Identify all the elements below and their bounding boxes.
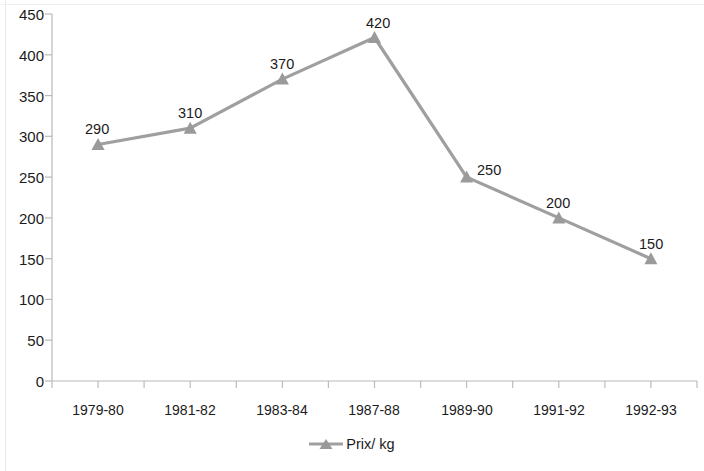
series-markers-prix-kg [92,31,658,264]
x-tick-label-1983-84: 1983-84 [232,403,332,417]
legend-marker-icon [309,437,343,451]
y-tick-label-100: 100 [0,292,44,307]
x-tick-label-1992-93: 1992-93 [601,403,701,417]
x-axis-ticks [52,381,697,388]
y-tick-label-150: 150 [0,252,44,267]
y-tick-label-400: 400 [0,48,44,63]
data-label-200: 200 [546,196,570,211]
data-label-370: 370 [270,57,294,72]
y-tick-label-300: 300 [0,129,44,144]
y-tick-label-250: 250 [0,170,44,185]
x-tick-label-1979-80: 1979-80 [48,403,148,417]
data-label-290: 290 [85,122,109,137]
data-label-420: 420 [366,16,390,31]
x-tick-label-1987-88: 1987-88 [324,403,424,417]
y-tick-label-350: 350 [0,89,44,104]
y-tick-label-0: 0 [0,374,44,389]
x-tick-label-1991-92: 1991-92 [509,403,609,417]
x-tick-label-1981-82: 1981-82 [140,403,240,417]
y-tick-label-450: 450 [0,7,44,22]
data-label-310: 310 [178,106,202,121]
series-line-prix-kg [98,38,651,259]
y-tick-label-50: 50 [0,333,44,348]
data-label-250: 250 [477,163,501,178]
data-label-150: 150 [639,237,663,252]
legend: Prix/ kg [0,437,704,452]
plot-area [0,0,704,471]
legend-label-prix-kg: Prix/ kg [346,437,394,452]
line-chart: 450 400 350 300 250 200 150 100 50 0 197… [0,0,704,471]
x-tick-label-1989-90: 1989-90 [417,403,517,417]
y-axis-ticks [45,14,52,381]
y-tick-label-200: 200 [0,211,44,226]
